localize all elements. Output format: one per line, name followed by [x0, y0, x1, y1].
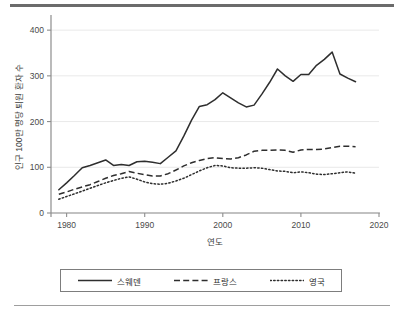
- legend-item-uk[interactable]: 영국: [270, 275, 325, 287]
- x-axis-title: 연도: [207, 237, 223, 247]
- data-series-group: [59, 52, 356, 199]
- y-tick-label: 0: [39, 208, 44, 218]
- series-line-uk: [59, 165, 356, 199]
- legend-label-sweden: 스웨덴: [117, 275, 141, 287]
- series-line-sweden: [59, 52, 356, 190]
- x-tick-label: 2010: [291, 220, 310, 230]
- y-axis-ticks: 0100200300400: [30, 25, 51, 218]
- legend-item-france[interactable]: 프랑스: [174, 275, 237, 287]
- bottom-divider-rule: [14, 305, 390, 306]
- x-tick-label: 1990: [135, 220, 154, 230]
- y-tick-label: 400: [30, 25, 44, 35]
- legend-label-uk: 영국: [309, 275, 325, 287]
- figure-container: 0100200300400 19801990200020102020 인구 10…: [0, 0, 400, 321]
- legend-swatch-solid: [78, 276, 112, 285]
- gridlines: [51, 30, 379, 213]
- series-line-france: [59, 146, 356, 194]
- x-tick-label: 2020: [370, 220, 389, 230]
- x-tick-label: 2000: [213, 220, 232, 230]
- chart-legend: 스웨덴 프랑스 영국: [60, 269, 342, 292]
- legend-swatch-dotted: [270, 276, 304, 285]
- y-axis-title: 인구 100만 명당 퇴원 환자 수: [14, 64, 24, 170]
- top-divider-rule: [10, 4, 394, 7]
- y-tick-label: 300: [30, 71, 44, 81]
- y-tick-label: 100: [30, 162, 44, 172]
- x-tick-label: 1980: [57, 220, 76, 230]
- legend-swatch-dashed: [174, 276, 208, 285]
- x-axis-ticks: 19801990200020102020: [57, 213, 389, 230]
- legend-item-sweden[interactable]: 스웨덴: [78, 275, 141, 287]
- line-chart: 0100200300400 19801990200020102020 인구 10…: [0, 8, 400, 258]
- legend-label-france: 프랑스: [213, 275, 237, 287]
- plot-area: 0100200300400 19801990200020102020 인구 10…: [0, 8, 400, 258]
- y-tick-label: 200: [30, 117, 44, 127]
